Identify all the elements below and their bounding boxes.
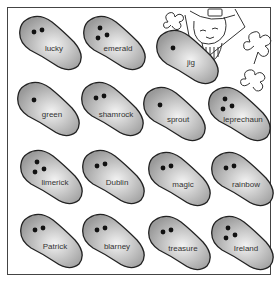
bean-card: jig [155, 28, 225, 88]
bean-word: blarney [104, 242, 130, 251]
bean-word: shamrock [99, 110, 134, 119]
syllable-dot-icon [41, 226, 46, 231]
syllable-dot-icon [171, 46, 176, 51]
bean-card: green [16, 80, 86, 140]
syllable-dot-icon [32, 30, 37, 35]
bean-card: rainbow [210, 150, 279, 210]
bean-card: leprechaun [207, 85, 277, 145]
syllable-dot-icon [42, 167, 47, 172]
bean-card: limerick [19, 148, 89, 208]
syllable-dot-icon [161, 230, 166, 235]
shamrock-icon [160, 8, 184, 30]
bean-card: lucky [18, 14, 88, 74]
syllable-dot-icon [102, 94, 107, 99]
bean-card: sprout [142, 85, 212, 145]
syllable-dot-icon [40, 28, 45, 33]
syllable-dot-icon [158, 103, 163, 108]
bean-word: leprechaun [223, 115, 263, 124]
syllable-dot-icon [103, 162, 108, 167]
syllable-dot-icon [98, 26, 103, 31]
syllable-dot-icon [230, 104, 235, 109]
syllable-dot-icon [224, 166, 229, 171]
syllable-dot-icon [224, 236, 229, 241]
syllable-dot-icon [232, 164, 237, 169]
syllable-dot-icon [103, 226, 108, 231]
syllable-dot-icon [96, 36, 101, 41]
bean-word: jig [187, 58, 195, 67]
bean-word: Dublin [106, 178, 129, 187]
bean-word: Ireland [234, 244, 258, 253]
bean-word: green [42, 110, 62, 119]
syllable-dot-icon [35, 160, 40, 165]
bean-word: limerick [41, 178, 68, 187]
bean-card: Ireland [210, 214, 279, 274]
syllable-dot-icon [105, 33, 110, 38]
syllable-dot-icon [221, 107, 226, 112]
syllable-dot-icon [33, 228, 38, 233]
syllable-dot-icon [95, 228, 100, 233]
bean-card: Dublin [81, 148, 151, 208]
bean-word: rainbow [232, 180, 260, 189]
syllable-dot-icon [223, 97, 228, 102]
bean-word: emerald [104, 44, 133, 53]
bean-card: blarney [81, 212, 151, 272]
syllable-dot-icon [161, 166, 166, 171]
syllable-dot-icon [33, 170, 38, 175]
bean-card: emerald [82, 14, 152, 74]
syllable-dot-icon [226, 226, 231, 231]
syllable-dot-icon [233, 233, 238, 238]
bean-card: treasure [147, 214, 217, 274]
bean-word: Patrick [43, 242, 67, 251]
bean-card: Patrick [19, 212, 89, 272]
syllable-dot-icon [94, 96, 99, 101]
bean-card: magic [147, 150, 217, 210]
syllable-dot-icon [169, 228, 174, 233]
syllable-dot-icon [95, 164, 100, 169]
bean-word: treasure [168, 244, 197, 253]
syllable-dot-icon [169, 164, 174, 169]
bean-word: lucky [45, 44, 63, 53]
bean-word: magic [172, 180, 193, 189]
bean-word: sprout [167, 115, 189, 124]
bean-card: shamrock [80, 80, 150, 140]
syllable-dot-icon [32, 98, 37, 103]
